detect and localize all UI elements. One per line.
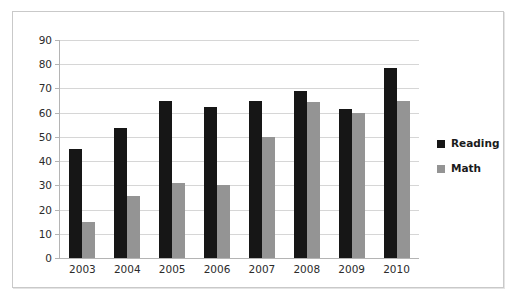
y-axis-tick-label: 80	[24, 59, 52, 70]
y-axis-tick-mark	[55, 234, 59, 235]
x-axis-tick-label: 2006	[195, 264, 240, 275]
y-axis-tick-label: 30	[24, 180, 52, 191]
y-axis-tick-mark	[55, 64, 59, 65]
y-axis-tick-label: 90	[24, 35, 52, 46]
x-axis-tick-label: 2007	[240, 264, 285, 275]
y-axis-tick-label: 50	[24, 132, 52, 143]
legend-swatch-icon	[437, 165, 445, 173]
x-axis-tick-label: 2008	[284, 264, 329, 275]
legend-item-label: Math	[451, 163, 481, 174]
y-axis-tick-mark	[55, 258, 59, 259]
y-axis-tick-label: 0	[24, 253, 52, 264]
y-axis-tick-label: 10	[24, 229, 52, 240]
x-axis-tick-label: 2003	[60, 264, 105, 275]
x-axis-tick-label: 2004	[105, 264, 150, 275]
y-axis-tick-label: 70	[24, 83, 52, 94]
legend-item-reading[interactable]: Reading	[437, 138, 507, 149]
y-axis-tick-mark	[55, 88, 59, 89]
y-axis-tick-mark	[55, 210, 59, 211]
y-axis-tick-label: 20	[24, 205, 52, 216]
bar-chart-figure: 0102030405060708090 20032004200520062007…	[0, 0, 523, 304]
y-axis-tick-mark	[55, 40, 59, 41]
legend-item-math[interactable]: Math	[437, 163, 507, 174]
legend-item-label: Reading	[451, 138, 499, 149]
y-axis-tick-mark	[55, 137, 59, 138]
chart-legend: ReadingMath	[437, 138, 507, 188]
y-axis-tick-mark	[55, 185, 59, 186]
legend-swatch-icon	[437, 140, 445, 148]
y-axis-tick-label: 60	[24, 108, 52, 119]
y-axis-tick-mark	[55, 113, 59, 114]
x-axis-tick-label: 2009	[329, 264, 374, 275]
x-axis-tick-label: 2005	[150, 264, 195, 275]
x-axis-tick-label: 2010	[374, 264, 419, 275]
y-axis-tick-label: 40	[24, 156, 52, 167]
y-axis-tick-mark	[55, 161, 59, 162]
